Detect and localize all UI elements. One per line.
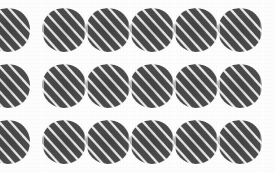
- lens-shape: [174, 64, 218, 108]
- lens-tile: [218, 8, 262, 52]
- lens-tile: [42, 120, 86, 164]
- lens-shape: [130, 120, 174, 164]
- lens-tile: [174, 120, 218, 164]
- lens-tile: [86, 64, 130, 108]
- figure-canvas: [0, 0, 275, 172]
- lens-tile: [218, 120, 262, 164]
- tile-row: [0, 8, 275, 52]
- lens-shape: [42, 8, 86, 52]
- lens-tile: [0, 64, 30, 108]
- tile-row: [0, 64, 275, 108]
- lens-tile: [130, 120, 174, 164]
- lens-shape: [86, 64, 130, 108]
- lens-shape: [218, 120, 262, 164]
- tile-row: [0, 120, 275, 164]
- lens-tile: [130, 8, 174, 52]
- lens-tile: [130, 64, 174, 108]
- lens-shape: [42, 120, 86, 164]
- lens-shape: [174, 8, 218, 52]
- lens-tile: [218, 64, 262, 108]
- lens-shape: [0, 8, 30, 52]
- lens-tile: [0, 8, 30, 52]
- lens-tile: [174, 64, 218, 108]
- lens-shape: [130, 64, 174, 108]
- lens-tile: [174, 8, 218, 52]
- lens-shape: [218, 64, 262, 108]
- lens-tile: [86, 8, 130, 52]
- lens-shape: [86, 8, 130, 52]
- lens-shape: [86, 120, 130, 164]
- lens-tile: [42, 8, 86, 52]
- lens-shape: [0, 120, 30, 164]
- lens-shape: [42, 64, 86, 108]
- lens-tile: [0, 120, 30, 164]
- lens-tile: [86, 120, 130, 164]
- lens-shape: [218, 8, 262, 52]
- lens-shape: [0, 64, 30, 108]
- lens-tile: [42, 64, 86, 108]
- lens-shape: [130, 8, 174, 52]
- lens-shape: [174, 120, 218, 164]
